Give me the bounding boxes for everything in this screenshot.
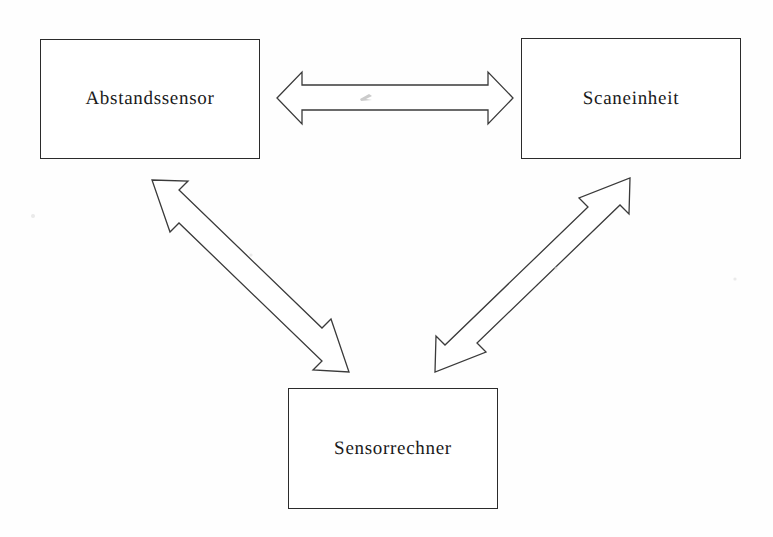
node-scaneinheit-label: Scaneinheit bbox=[583, 88, 679, 110]
connector-scaneinheit-sensorrechner-arrow bbox=[435, 178, 630, 372]
connector-abstandssensor-sensorrechner-arrow bbox=[152, 180, 349, 372]
connector-abstandssensor-scaneinheit-arrow bbox=[277, 72, 513, 124]
node-sensorrechner-label: Sensorrechner bbox=[334, 438, 452, 460]
node-abstandssensor-label: Abstandssensor bbox=[85, 88, 214, 110]
diagram-canvas: Abstandssensor Scaneinheit Sensorrechner bbox=[0, 0, 773, 537]
node-abstandssensor[interactable]: Abstandssensor bbox=[40, 39, 260, 159]
node-scaneinheit[interactable]: Scaneinheit bbox=[521, 38, 741, 159]
node-sensorrechner[interactable]: Sensorrechner bbox=[288, 388, 498, 509]
